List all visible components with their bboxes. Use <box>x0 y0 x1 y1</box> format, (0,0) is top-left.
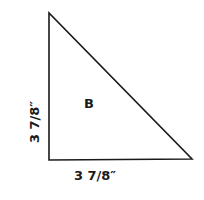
triangle-diagram: B 3 7/8″ 3 7/8″ <box>0 0 204 200</box>
piece-label: B <box>84 96 94 111</box>
triangle-shape <box>49 13 192 160</box>
bottom-dimension-label: 3 7/8″ <box>74 168 116 183</box>
left-dimension-label: 3 7/8″ <box>27 101 42 143</box>
